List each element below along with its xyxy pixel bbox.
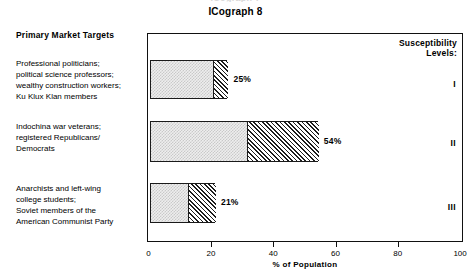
bar-1: [150, 60, 228, 99]
bar-3-extension-segment: [188, 184, 216, 222]
category-label-1: Professional politicians; political scie…: [16, 58, 148, 102]
left-label-column: Primary Market Targets: [16, 30, 144, 40]
category-label-2: Indochina war veterans; registered Repub…: [16, 121, 148, 154]
x-tick-label-60: 60: [331, 249, 340, 258]
x-tick-label-100: 100: [453, 249, 466, 258]
category-label-3: Anarchists and left-wing college student…: [16, 183, 148, 227]
bar-2-value-label: 54%: [324, 136, 342, 146]
bar-2-base-segment: [151, 122, 248, 161]
plot-frame: Susceptibility Levels: I II III 25%54%21…: [147, 33, 463, 242]
bar-row: 54%: [148, 121, 464, 162]
page-title: ICograph 8: [0, 6, 471, 17]
x-tick-40: [273, 242, 274, 247]
x-tick-label-20: 20: [206, 249, 215, 258]
x-tick-60: [336, 242, 337, 247]
bar-1-base-segment: [151, 61, 213, 98]
legend-heading-line1: Susceptibility: [399, 38, 457, 48]
bar-1-extension-segment: [213, 61, 229, 98]
x-axis-title: % of Population: [147, 260, 463, 269]
bar-3-value-label: 21%: [221, 197, 239, 207]
x-tick-label-80: 80: [393, 249, 402, 258]
bar-1-value-label: 25%: [233, 74, 251, 84]
bar-row: 25%: [148, 60, 464, 99]
x-tick-label-40: 40: [269, 249, 278, 258]
bar-2: [150, 121, 318, 162]
x-tick-20: [211, 242, 212, 247]
bar-3: [150, 183, 215, 223]
x-tick-label-0: 0: [146, 249, 150, 258]
x-tick-80: [398, 242, 399, 247]
bar-row: 21%: [148, 183, 464, 223]
bar-2-extension-segment: [247, 122, 319, 161]
x-axis: 020406080100: [147, 242, 463, 262]
cropped-previous-title: ICograph 7: [0, 0, 471, 2]
left-column-heading: Primary Market Targets: [16, 30, 144, 40]
bar-3-base-segment: [151, 184, 188, 222]
legend-heading: Susceptibility Levels:: [399, 38, 457, 58]
icograph-page: ICograph 7 ICograph 8 Primary Market Tar…: [0, 0, 471, 276]
legend-heading-line2: Levels:: [399, 48, 457, 58]
